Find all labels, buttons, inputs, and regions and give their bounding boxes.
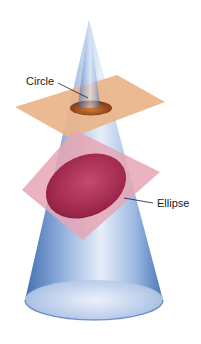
cone-illustration bbox=[0, 0, 201, 344]
conic-sections-figure: Circle Ellipse bbox=[0, 0, 201, 344]
ellipse-label: Ellipse bbox=[157, 197, 189, 209]
circle-label: Circle bbox=[26, 75, 54, 87]
